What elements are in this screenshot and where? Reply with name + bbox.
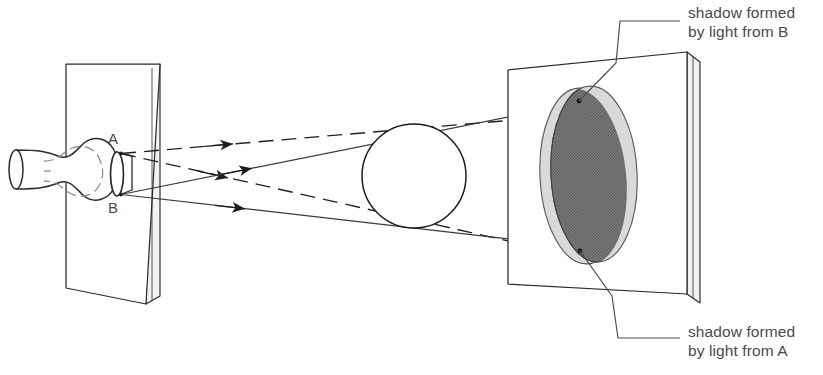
callout-shadow-from-b: shadow formed by light from B [688,3,795,41]
sphere-body [362,124,466,228]
ray-b-lower-arrow [215,205,245,209]
right-plate-thickness [687,52,700,303]
occluding-sphere [362,124,466,228]
callout-shadow-from-b-line1: shadow formed [688,3,795,22]
ray-a-upper-arrow [205,144,233,146]
aperture-label-a: A [108,130,118,147]
callout-shadow-from-a: shadow formed by light from A [688,322,795,360]
aperture-opening [111,152,124,196]
aperture-label-b: B [108,199,118,216]
callout-shadow-from-a-line2: by light from A [688,341,795,360]
bulb-base-cap [9,150,23,189]
aperture [111,152,133,197]
shadow-diagram-svg [0,0,823,375]
callout-shadow-from-b-line2: by light from B [688,22,795,41]
light-bulb [9,139,119,201]
ray-b-upper-arrow [222,168,252,174]
callout-shadow-from-a-line1: shadow formed [688,322,795,341]
figure-canvas: occurred. A B shadow formed by light fro… [0,0,823,375]
